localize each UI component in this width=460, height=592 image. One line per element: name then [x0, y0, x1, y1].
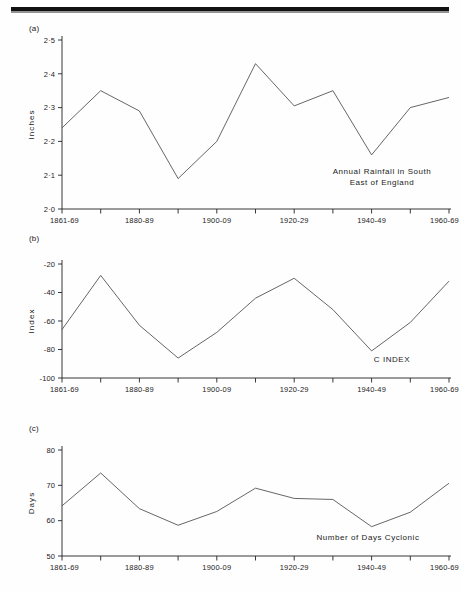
- x-tick-label: 1920-29: [280, 563, 309, 572]
- x-tick-label: 1960-69: [430, 216, 459, 225]
- y-tick-label: 2·4: [44, 70, 55, 79]
- x-tick-label: 1940-49: [357, 563, 386, 572]
- y-tick-label: -40: [44, 288, 55, 297]
- x-tick-label: 1960-69: [430, 563, 459, 572]
- plot-b: -20-40-60-80-1001861-691880-891900-09192…: [0, 232, 460, 422]
- x-tick-label: 1900-09: [202, 216, 231, 225]
- data-series-line: [62, 275, 449, 358]
- y-axis-title: Inches: [27, 109, 36, 139]
- y-tick-label: 70: [46, 481, 55, 490]
- x-tick-label: 1900-09: [202, 385, 231, 394]
- x-tick-label: 1900-09: [202, 563, 231, 572]
- figure-page: (a) 2·52·42·32·22·12·01861-691880-891900…: [0, 0, 460, 592]
- chart-panel-c: (c) 807060501861-691880-891900-091920-29…: [0, 422, 460, 592]
- y-tick-label: 80: [46, 446, 55, 455]
- x-tick-label: 1960-69: [430, 385, 459, 394]
- x-tick-label: 1940-49: [357, 385, 386, 394]
- chart-panel-a: (a) 2·52·42·32·22·12·01861-691880-891900…: [0, 22, 460, 232]
- y-tick-label: 2·2: [44, 137, 55, 146]
- chart-annotation: East of England: [350, 178, 415, 187]
- y-tick-label: 50: [46, 552, 55, 561]
- chart-annotation: Annual Rainfall in South: [333, 167, 432, 176]
- x-tick-label: 1861-69: [50, 385, 79, 394]
- data-series-line: [62, 473, 449, 527]
- x-tick-label: 1861-69: [50, 216, 79, 225]
- x-tick-label: 1940-49: [357, 216, 386, 225]
- plot-c: 807060501861-691880-891900-091920-291940…: [0, 422, 460, 592]
- y-axis-title: Index: [27, 308, 36, 333]
- x-tick-label: 1920-29: [280, 385, 309, 394]
- plot-a: 2·52·42·32·22·12·01861-691880-891900-091…: [0, 22, 460, 232]
- chart-annotation: C INDEX: [374, 355, 410, 364]
- x-tick-label: 1880-89: [125, 385, 154, 394]
- y-tick-label: 2·3: [44, 103, 55, 112]
- y-tick-label: 2·1: [44, 171, 55, 180]
- x-tick-label: 1880-89: [125, 563, 154, 572]
- y-tick-label: -20: [44, 260, 55, 269]
- y-axis-title: Days: [27, 492, 36, 515]
- y-tick-label: -60: [44, 317, 55, 326]
- x-tick-label: 1880-89: [125, 216, 154, 225]
- x-tick-label: 1920-29: [280, 216, 309, 225]
- y-tick-label: 60: [46, 516, 55, 525]
- data-series-line: [62, 64, 449, 179]
- chart-annotation: Number of Days Cyclonic: [317, 533, 420, 542]
- y-tick-label: -100: [40, 374, 55, 383]
- y-tick-label: 2·5: [44, 36, 55, 45]
- y-tick-label: 2·0: [44, 205, 55, 214]
- y-tick-label: -80: [44, 345, 55, 354]
- x-tick-label: 1861-69: [50, 563, 79, 572]
- chart-panel-b: (b) -20-40-60-80-1001861-691880-891900-0…: [0, 232, 460, 422]
- scan-artifact-bar-secondary: [11, 11, 449, 13]
